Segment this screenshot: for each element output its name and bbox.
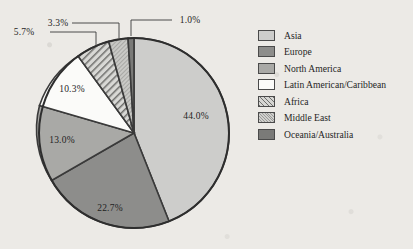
asia-swatch (258, 30, 275, 41)
legend-label: Europe (284, 46, 312, 57)
chart-legend: Asia Europe North America Latin American… (258, 27, 410, 143)
pie-label-europe: 22.7% (97, 203, 123, 213)
legend-label: North America (284, 63, 341, 74)
europe-swatch (258, 46, 275, 57)
pie-label-north-america: 13.0% (49, 135, 75, 145)
legend-label: Asia (284, 30, 302, 41)
middle-east-swatch (258, 112, 275, 123)
pie-label-oceania: 1.0% (180, 15, 201, 25)
legend-item-africa[interactable]: Africa (258, 93, 410, 110)
leader-line-oceania (131, 20, 172, 36)
leader-line-middle-east (72, 23, 119, 38)
legend-item-north-america[interactable]: North America (258, 60, 410, 77)
legend-item-europe[interactable]: Europe (258, 44, 410, 61)
legend-label: Oceania/Australia (284, 129, 353, 140)
africa-swatch (258, 96, 275, 107)
latin-america-swatch (258, 79, 275, 90)
pie-label-africa: 5.7% (14, 27, 35, 37)
pie-label-asia: 44.0% (183, 111, 209, 121)
legend-item-asia[interactable]: Asia (258, 27, 410, 44)
leader-line-africa (50, 32, 96, 46)
pie-label-latin-america: 10.3% (59, 84, 85, 94)
legend-label: Latin American/Caribbean (284, 79, 386, 90)
pie-label-middle-east: 3.3% (48, 18, 69, 28)
legend-item-latin-america[interactable]: Latin American/Caribbean (258, 77, 410, 94)
legend-label: Middle East (284, 112, 331, 123)
legend-item-middle-east[interactable]: Middle East (258, 110, 410, 127)
oceania-swatch (258, 129, 275, 140)
legend-label: Africa (284, 96, 309, 107)
legend-item-oceania[interactable]: Oceania/Australia (258, 126, 410, 143)
north-america-swatch (258, 63, 275, 74)
